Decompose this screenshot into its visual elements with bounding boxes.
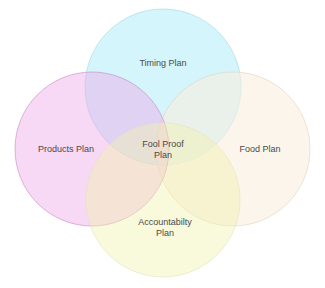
food-plan-label: Food Plan	[239, 144, 280, 155]
accountability-label-line2: Plan	[138, 228, 192, 239]
timing-plan-label: Timing Plan	[139, 58, 186, 69]
accountability-label-line1: Accountabilty	[138, 217, 192, 228]
center-label-line1: Fool Proof	[142, 139, 184, 150]
accountability-plan-label: Accountabilty Plan	[138, 217, 192, 239]
center-label-line2: Plan	[142, 150, 184, 161]
center-label: Fool Proof Plan	[142, 139, 184, 161]
products-plan-label: Products Plan	[38, 144, 94, 155]
